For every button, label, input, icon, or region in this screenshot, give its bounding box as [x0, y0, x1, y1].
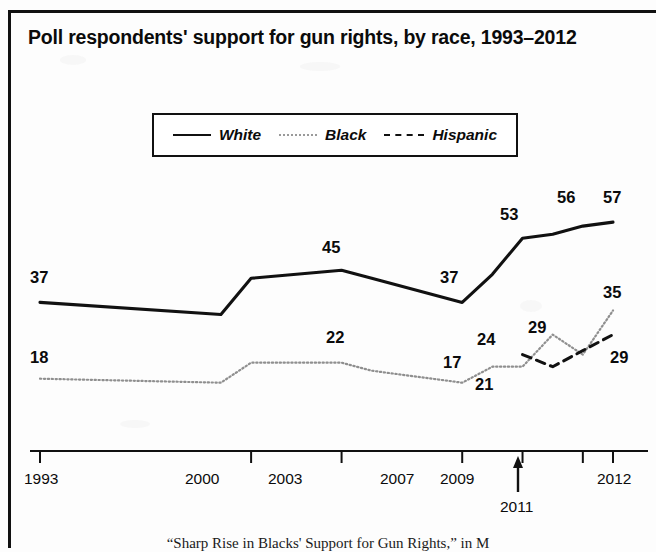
data-value-label: 35 [603, 283, 621, 302]
data-value-label: 24 [477, 330, 495, 349]
x-axis-label-2007: 2007 [380, 470, 414, 488]
data-value-label: 57 [603, 188, 621, 207]
page-title: Poll respondents' support for gun rights… [28, 26, 628, 49]
data-value-label: 37 [30, 268, 48, 287]
legend-item-white: White [173, 126, 261, 144]
x-axis-label-2009: 2009 [440, 470, 474, 488]
data-value-label: 53 [500, 205, 518, 224]
chart-legend: White Black Hispanic [152, 113, 518, 157]
data-value-label: 29 [610, 348, 628, 367]
x-axis-label-2012: 2012 [597, 470, 631, 488]
x-axis-label-1993: 1993 [24, 470, 58, 488]
legend-label-white: White [219, 126, 261, 144]
legend-item-hispanic: Hispanic [384, 126, 497, 144]
legend-swatch-solid-icon [173, 134, 211, 136]
data-value-label: 29 [528, 318, 546, 337]
data-value-label: 22 [326, 328, 344, 347]
legend-swatch-dotted-icon [279, 134, 317, 136]
legend-label-black: Black [325, 126, 366, 144]
figure-border [8, 10, 656, 548]
x-axis-label-2000: 2000 [185, 470, 219, 488]
data-value-label: 17 [443, 353, 461, 372]
legend-swatch-dashed-icon [384, 134, 424, 136]
x-axis-label-2003: 2003 [268, 470, 302, 488]
data-value-label: 37 [440, 268, 458, 287]
figure-caption: “Sharp Rise in Blacks' Support for Gun R… [0, 535, 656, 552]
data-value-label: 45 [322, 238, 340, 257]
data-value-label: 21 [475, 375, 493, 394]
x-axis-label-2011: 2011 [500, 498, 533, 516]
legend-label-hispanic: Hispanic [432, 126, 497, 144]
data-value-label: 18 [30, 348, 48, 367]
data-value-label: 56 [557, 188, 575, 207]
legend-item-black: Black [279, 126, 366, 144]
